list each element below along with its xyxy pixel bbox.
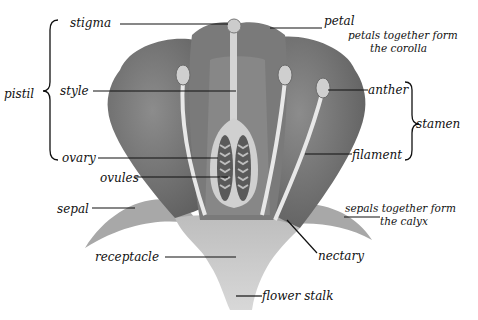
flower-diagram: stigma pistil style ovary ovules sepal r…: [0, 0, 478, 320]
label-flower-stalk: flower stalk: [262, 290, 333, 302]
label-sepal: sepal: [57, 203, 89, 215]
anther-left: [176, 65, 190, 85]
label-stigma: stigma: [70, 17, 111, 29]
label-anther: anther: [368, 84, 408, 96]
label-filament: filament: [352, 149, 402, 161]
label-pistil: pistil: [4, 88, 34, 100]
label-ovary: ovary: [62, 152, 96, 164]
label-calyx-line2: the calyx: [380, 216, 428, 227]
label-ovules: ovules: [100, 172, 139, 184]
style-shape: [230, 30, 237, 125]
label-corolla-line1: petals together form: [348, 30, 458, 41]
anther-mid: [278, 65, 292, 85]
label-stamen: stamen: [416, 118, 460, 130]
label-corolla-line2: the corolla: [370, 43, 427, 54]
anther-right: [316, 78, 330, 98]
label-petal: petal: [324, 15, 355, 27]
label-receptacle: receptacle: [95, 251, 159, 263]
stigma-shape: [227, 19, 241, 33]
label-calyx-line1: sepals together form: [345, 203, 456, 214]
label-nectary: nectary: [318, 250, 364, 262]
label-style: style: [60, 85, 89, 97]
pistil-brace: [43, 20, 58, 160]
